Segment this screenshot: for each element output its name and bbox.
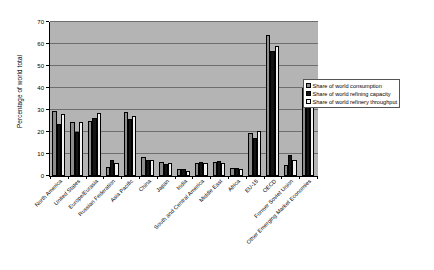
bar — [168, 163, 172, 176]
bar-group — [139, 22, 157, 176]
bar-group — [281, 22, 299, 176]
bar-group — [103, 22, 121, 176]
bar — [114, 163, 118, 176]
y-tick-label: 40 — [28, 85, 44, 91]
bar-group — [192, 22, 210, 176]
bar-group — [121, 22, 139, 176]
bar-group — [210, 22, 228, 176]
y-tick-label: 70 — [28, 19, 44, 25]
y-tick-label: 10 — [28, 151, 44, 157]
x-axis-labels: North AmericaUnited StatesEurope/Eurasia… — [0, 178, 434, 268]
bar-chart: Percentage of world total 01020304050607… — [0, 0, 434, 270]
bar — [79, 122, 83, 176]
legend-label: Share of world consumption — [313, 83, 382, 89]
bar-group — [264, 22, 282, 176]
legend-item: Share of world refinery throughput — [306, 98, 397, 106]
bars-layer — [50, 22, 317, 176]
bar-group — [246, 22, 264, 176]
legend-swatch-icon — [306, 99, 311, 104]
bar — [275, 46, 279, 176]
legend-swatch-icon — [306, 91, 311, 96]
bar — [257, 131, 261, 176]
bar — [221, 163, 225, 176]
bar-group — [157, 22, 175, 176]
bar — [292, 160, 296, 177]
y-tick-label: 20 — [28, 129, 44, 135]
bar — [132, 116, 136, 177]
bar — [203, 163, 207, 176]
bar-group — [228, 22, 246, 176]
bar — [239, 169, 243, 176]
y-tick-label: 60 — [28, 41, 44, 47]
y-axis-ticks: 010203040506070 — [0, 22, 49, 176]
bar — [150, 160, 154, 177]
bar-group — [86, 22, 104, 176]
bar-group — [175, 22, 193, 176]
y-tick-label: 50 — [28, 63, 44, 69]
chart-legend: Share of world consumptionShare of world… — [303, 79, 400, 108]
bar — [97, 113, 101, 176]
bar-group — [50, 22, 68, 176]
bar-group — [68, 22, 86, 176]
legend-swatch-icon — [306, 83, 311, 88]
legend-item: Share of world consumption — [306, 82, 397, 90]
legend-label: Share of world refining capacity — [313, 91, 391, 97]
bar — [61, 114, 65, 176]
legend-item: Share of world refining capacity — [306, 90, 397, 98]
y-tick-label: 30 — [28, 107, 44, 113]
legend-label: Share of world refinery throughput — [313, 99, 398, 105]
